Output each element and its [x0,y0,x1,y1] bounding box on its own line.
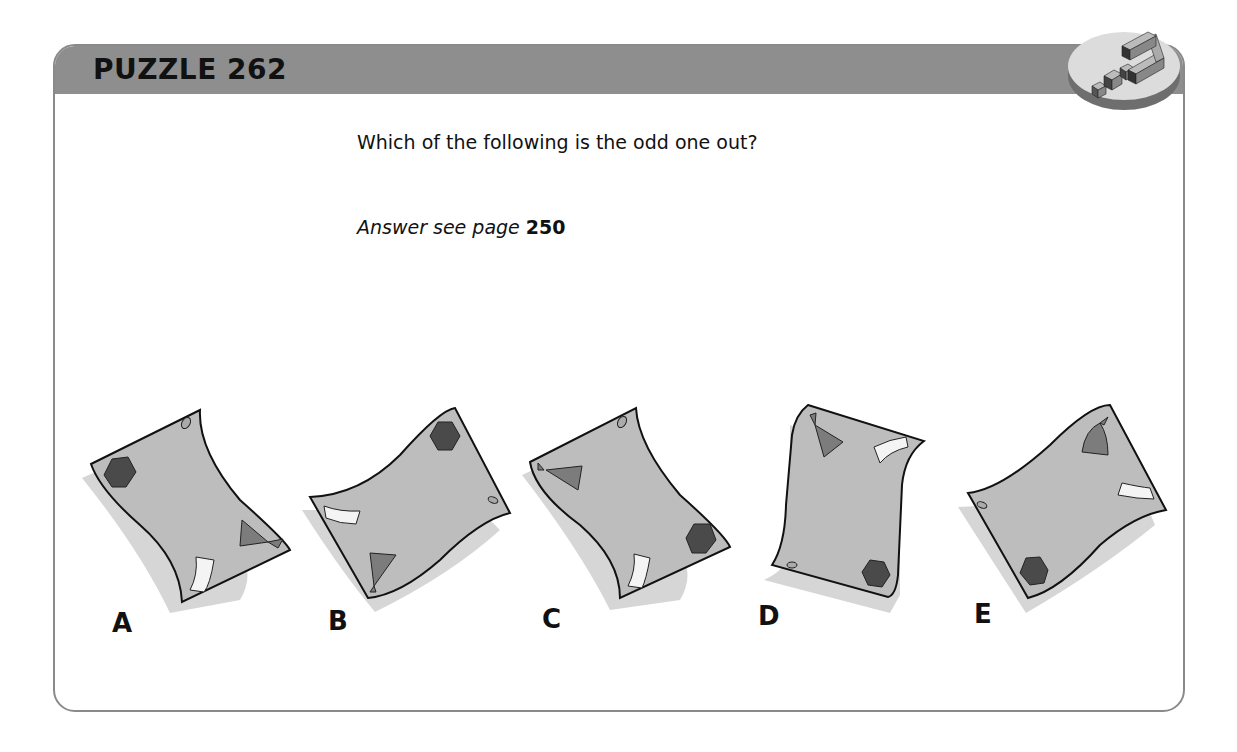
option-label-b: B [328,606,348,636]
answer-reference: Answer see page 250 [357,216,566,238]
option-c[interactable]: C [520,400,750,650]
option-label-c: C [542,604,561,634]
answer-page-number: 250 [526,216,566,238]
option-label-d: D [758,601,780,631]
question-text: Which of the following is the odd one ou… [357,131,757,153]
answer-prefix: Answer see page [357,216,520,238]
option-d[interactable]: D [740,395,960,650]
option-a[interactable]: A [80,400,310,650]
puzzle-title: PUZZLE 262 [93,53,287,86]
option-b[interactable]: B [300,400,520,650]
option-label-a: A [112,608,132,638]
puzzle-header: PUZZLE 262 [55,46,1183,94]
option-e[interactable]: E [950,395,1180,650]
option-label-e: E [974,599,992,629]
puzzle-logo-icon [1062,14,1182,114]
